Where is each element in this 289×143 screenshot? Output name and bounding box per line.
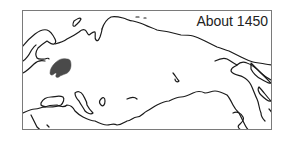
aral-sea xyxy=(100,98,106,106)
lake-baikal xyxy=(173,73,179,82)
lake-balkhash xyxy=(127,98,137,100)
map-title: About 1450 xyxy=(196,13,268,29)
baltic-inner-coast xyxy=(23,45,36,61)
map-frame: About 1450 xyxy=(22,10,272,130)
okhotsk-coast xyxy=(215,58,237,65)
caspian-sea xyxy=(75,92,93,114)
shaded-territory xyxy=(50,59,71,78)
kamchatka-peninsula xyxy=(251,63,271,83)
novaya-zemlya xyxy=(73,18,81,26)
scandinavia-coastline xyxy=(23,30,56,60)
mediterranean-island xyxy=(47,125,49,127)
baltic-south-coast xyxy=(23,61,45,73)
sakhalin-island xyxy=(258,87,271,101)
pacific-island xyxy=(269,109,272,117)
mediterranean-coast xyxy=(31,115,43,130)
korea-coast xyxy=(233,112,244,130)
kola-white-sea-coast xyxy=(55,29,102,44)
